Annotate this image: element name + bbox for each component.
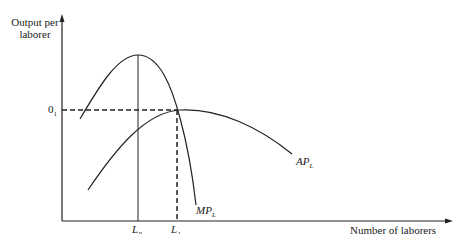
o1-label: 01: [48, 103, 57, 120]
y-axis-label: Output per laborer: [10, 16, 60, 40]
y-axis-label-line1: Output per: [10, 16, 60, 28]
l0-label: L0: [132, 223, 142, 234]
x-axis-label: Number of laborers: [350, 224, 436, 234]
mp-label: MPL: [196, 204, 216, 221]
ap-label: APL: [296, 155, 313, 172]
y-axis-label-line2: laborer: [10, 28, 60, 40]
production-diagram: Output per laborer 01 L0 L1 MPL APL Numb…: [0, 0, 456, 234]
y-axis-arrow-icon: [60, 14, 65, 22]
l1-label: L1: [171, 223, 181, 234]
diagram-canvas: [0, 0, 456, 234]
ap-curve: [88, 110, 292, 190]
x-axis-arrow-icon: [445, 219, 453, 224]
